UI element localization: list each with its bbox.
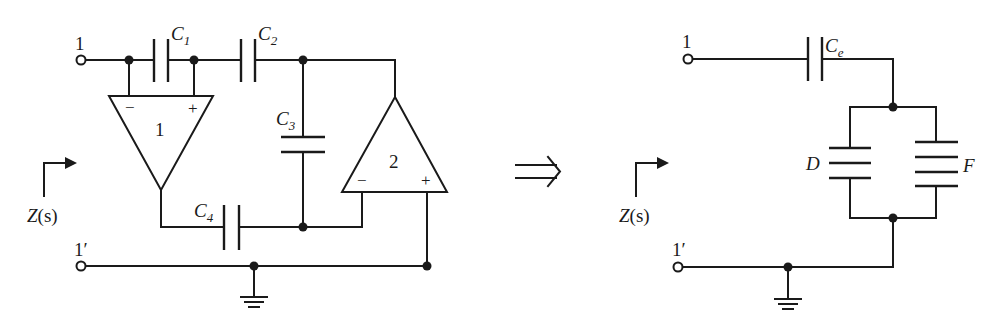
junction-node	[125, 56, 134, 65]
ground-icon	[775, 267, 801, 309]
ground-icon	[241, 266, 267, 307]
terminal-1-label: 1	[75, 33, 85, 54]
junction-node	[423, 262, 432, 271]
junction-node	[784, 263, 793, 272]
capacitor-c3	[281, 137, 325, 152]
junction-node	[299, 223, 308, 232]
capacitor-c1	[154, 39, 168, 82]
opamp-1-plus: +	[188, 99, 198, 118]
terminal-1-prime-label: 1′	[672, 239, 686, 260]
junction-node	[889, 214, 898, 223]
opamp-2-plus: +	[421, 171, 431, 190]
element-f	[915, 142, 958, 186]
opamp-2-label: 2	[389, 151, 399, 172]
terminal-1-label: 1	[682, 31, 692, 52]
ce-label: Ce	[825, 35, 844, 60]
junction-node	[889, 103, 898, 112]
c3-label: C3	[276, 108, 296, 133]
opamp-2-minus: −	[357, 171, 367, 190]
impedance-arrow-icon	[636, 157, 669, 196]
opamp-1-minus: −	[125, 98, 135, 117]
opamp-1-label: 1	[155, 119, 165, 140]
right-circuit: 1 1′ Ce D F Z(s)	[619, 31, 975, 309]
terminal-1	[684, 55, 693, 64]
terminal-1	[77, 56, 86, 65]
circuit-equivalence-diagram: 1 1′ C1 C2 C3 C4 − + 1 2 − + Z(s)	[0, 0, 1002, 327]
junction-node	[299, 56, 308, 65]
junction-node	[250, 262, 259, 271]
impedance-label: Z(s)	[27, 205, 58, 227]
left-circuit: 1 1′ C1 C2 C3 C4 − + 1 2 − + Z(s)	[27, 23, 447, 307]
c1-label: C1	[171, 23, 190, 48]
capacitor-c2	[241, 39, 255, 82]
f-label: F	[962, 155, 975, 176]
capacitor-c4	[224, 205, 239, 250]
element-d	[829, 148, 871, 178]
impedance-label: Z(s)	[619, 205, 650, 227]
capacitor-ce	[808, 37, 822, 81]
terminal-1-prime	[77, 262, 86, 271]
d-label: D	[805, 153, 820, 174]
c2-label: C2	[258, 23, 278, 48]
junction-node	[190, 56, 199, 65]
implies-arrow-icon	[516, 157, 560, 186]
terminal-1-prime	[674, 263, 683, 272]
c4-label: C4	[194, 200, 214, 225]
terminal-1-prime-label: 1′	[74, 239, 88, 260]
impedance-arrow-icon	[44, 157, 77, 196]
